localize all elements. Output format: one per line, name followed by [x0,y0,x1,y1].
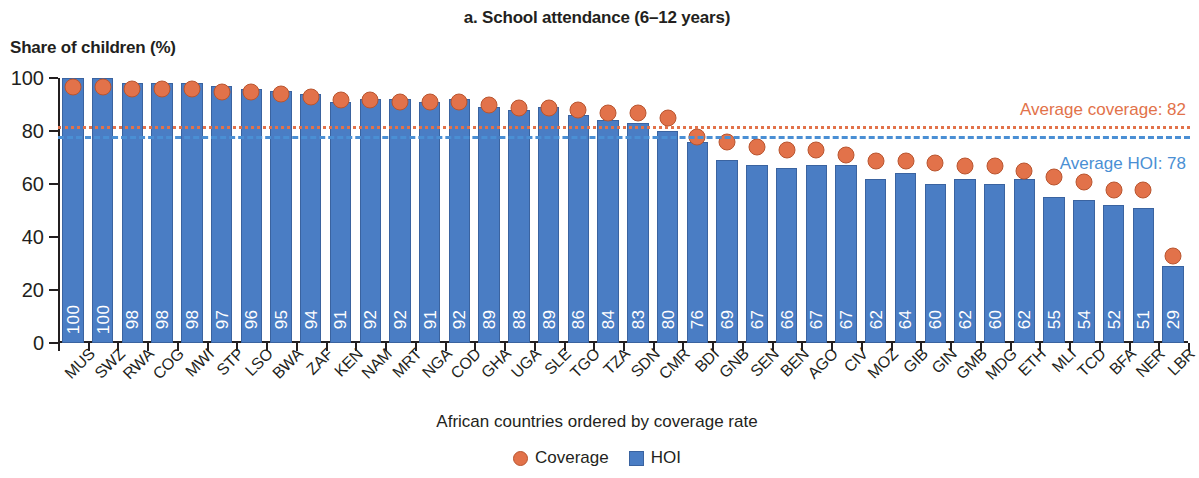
x-label-eth: ETH [1015,345,1050,380]
coverage-dot-cmr [659,110,676,127]
x-label-bfa: BFA [1106,345,1140,379]
reference-label-average-coverage: Average coverage: 82 [1020,100,1186,120]
coverage-dot-moz [867,152,884,169]
y-tick-label: 60 [22,173,44,196]
coverage-dot-swz [94,78,111,95]
legend-item-coverage: Coverage [513,448,609,468]
coverage-dot-sdn [629,105,646,122]
y-tick-mark [49,342,58,344]
x-label-gha: GHA [478,345,515,382]
coverage-dot-sen [748,139,765,156]
x-label-lso: LSO [242,345,277,380]
x-axis-title: African countries ordered by coverage ra… [0,412,1194,432]
x-label-sen: SEN [747,345,783,381]
coverage-dot-sle [540,99,557,116]
coverage-dot-ben [778,142,795,159]
y-tick-mark [49,130,58,132]
coverage-dot-gib [897,152,914,169]
x-label-swz: SWZ [91,345,128,382]
coverage-dot-nga [421,94,438,111]
y-tick-label: 80 [22,120,44,143]
coverage-dot-mdg [986,158,1003,175]
x-label-tcd: TCD [1074,345,1110,381]
coverage-dot-bwa [273,86,290,103]
coverage-dot-lso [243,83,260,100]
coverage-dot-tcd [1075,173,1092,190]
x-label-mli: MLI [1049,345,1080,376]
x-label-ben: BEN [777,345,813,381]
x-label-sdn: SDN [627,345,663,381]
x-label-rwa: RWA [120,345,158,383]
x-label-tgo: TGO [567,345,604,382]
coverage-dot-zaf [302,89,319,106]
x-label-gib: GIB [899,345,931,377]
y-tick-mark [49,236,58,238]
x-label-cod: COD [448,345,485,382]
x-label-nga: NGA [419,345,456,382]
coverage-dot-gmb [956,158,973,175]
legend-label-coverage: Coverage [535,448,609,468]
y-tick-mark [49,77,58,79]
legend-label-hoi: HOI [651,448,681,468]
y-tick-label: 40 [22,226,44,249]
x-label-mus: MUS [61,345,98,382]
coverage-dot-tgo [570,102,587,119]
y-tick-mark [49,289,58,291]
x-label-ken: KEN [331,345,367,381]
coverage-dot-bfa [1105,181,1122,198]
x-label-cmr: CMR [655,345,693,383]
chart-legend: Coverage HOI [0,448,1194,468]
x-label-mrt: MRT [389,345,426,382]
y-tick-label: 100 [11,67,44,90]
coverage-dot-cod [451,94,468,111]
x-label-gnb: GNB [716,345,753,382]
coverage-dot-tza [600,105,617,122]
x-label-tza: TZA [600,345,634,379]
coverage-dot-stp [213,83,230,100]
y-axis-title: Share of children (%) [10,38,176,58]
reference-line-average-hoi [58,136,1190,139]
coverage-dot-nam [362,91,379,108]
coverage-dot-gha [481,97,498,114]
reference-line-average-coverage [58,126,1190,129]
coverage-dot-mrt [391,94,408,111]
x-label-mdg: MDG [982,345,1021,384]
coverage-dot-eth [1016,163,1033,180]
coverage-dot-ago [808,142,825,159]
x-label-gmb: GMB [953,345,991,383]
x-label-nam: NAM [359,345,396,382]
circle-marker-icon [513,451,528,466]
coverage-dot-lbr [1165,248,1182,265]
coverage-dot-civ [838,147,855,164]
coverage-dot-ner [1135,181,1152,198]
chart-title: a. School attendance (6–12 years) [0,8,1194,28]
x-label-zaf: ZAF [303,345,337,379]
reference-label-average-hoi: Average HOI: 78 [1060,154,1186,174]
x-label-moz: MOZ [864,345,901,382]
plot-area: 020406080100 100100989898979695949192929… [58,78,1188,343]
square-marker-icon [629,451,644,466]
y-tick-label: 0 [33,332,44,355]
x-label-cog: COG [150,345,188,383]
x-label-ago: AGO [805,345,842,382]
y-tick-mark [49,183,58,185]
coverage-dot-gin [927,155,944,172]
coverage-dot-mus [64,78,81,95]
x-label-sle: SLE [541,345,575,379]
x-axis-category-labels: MUSSWZRWACOGMWISTPLSOBWAZAFKENNAMMRTNGAC… [58,345,1188,407]
x-label-stp: STP [213,345,247,379]
x-label-uga: UGA [508,345,545,382]
coverage-dot-uga [510,99,527,116]
coverage-dot-cog [154,81,171,98]
x-label-ner: NER [1133,345,1169,381]
y-tick-label: 20 [22,279,44,302]
coverage-dot-rwa [124,81,141,98]
x-label-bwa: BWA [269,345,307,383]
coverage-dot-series [58,78,1188,343]
x-label-mwi: MWI [182,345,218,381]
x-label-lbr: LBR [1165,345,1199,379]
legend-item-hoi: HOI [629,448,681,468]
coverage-dot-ken [332,91,349,108]
coverage-dot-mwi [183,81,200,98]
